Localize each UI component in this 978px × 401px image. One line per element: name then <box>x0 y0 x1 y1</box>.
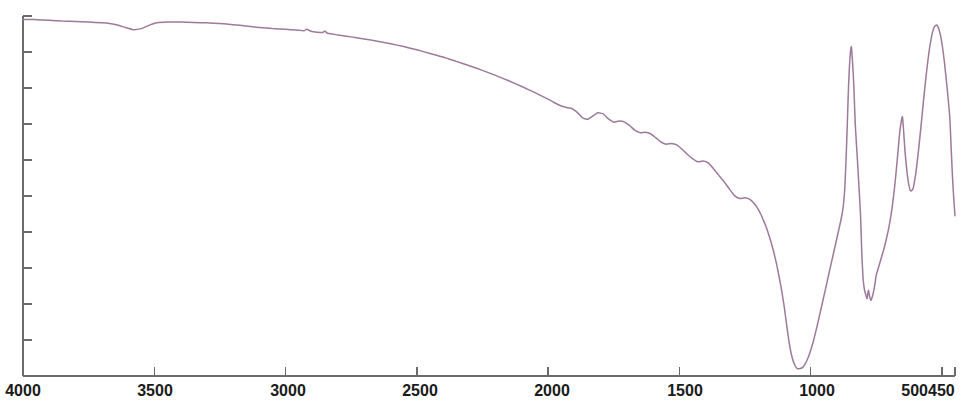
x-tick-label-500: 500 <box>901 382 928 399</box>
x-tick-label-1000: 1000 <box>799 382 835 399</box>
x-tick-label-2500: 2500 <box>402 382 438 399</box>
spectrum-trace-transmittance <box>23 20 955 369</box>
y-axis-ticks <box>23 16 32 376</box>
x-tick-label-3500: 3500 <box>137 382 173 399</box>
spectrum-plot: 4000 3500 3000 2500 2000 1500 1000 500 4… <box>0 0 978 401</box>
ftir-spectrum-figure: 4000 3500 3000 2500 2000 1500 1000 500 4… <box>0 0 978 401</box>
x-tick-label-2000: 2000 <box>534 382 570 399</box>
x-tick-label-450: 450 <box>928 382 955 399</box>
x-tick-label-3000: 3000 <box>270 382 306 399</box>
x-tick-label-4000: 4000 <box>5 382 41 399</box>
x-axis-ticks <box>23 367 955 376</box>
x-tick-label-1500: 1500 <box>667 382 703 399</box>
